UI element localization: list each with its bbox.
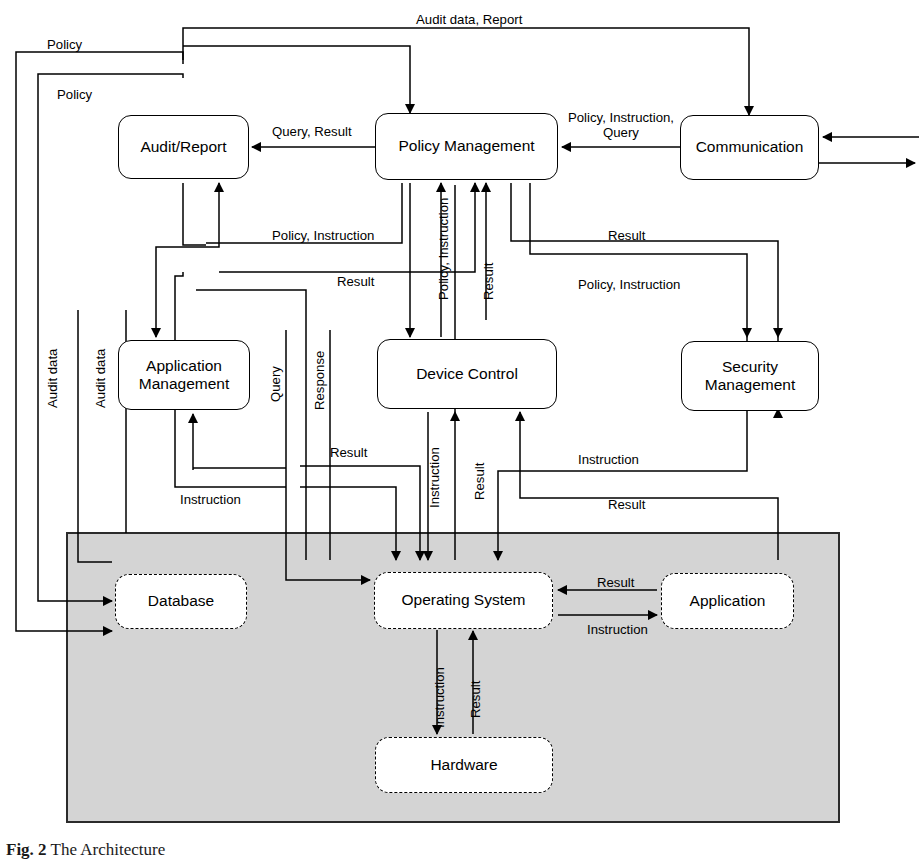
node-security-management[interactable]: Security Management (681, 341, 819, 411)
edge-label-policy-instruction-security: Policy, Instruction (578, 277, 680, 292)
node-label: Security Management (682, 358, 818, 395)
edge-label-policy-instruction-audit: Policy, Instruction (272, 228, 374, 243)
edge-label-policy-instruction-device: Policy, Instruction (436, 198, 451, 300)
node-policy-management[interactable]: Policy Management (375, 113, 558, 180)
node-label: Operating System (401, 591, 525, 609)
edge-policy-instruction-ar (156, 243, 219, 330)
figure-caption-prefix: Fig. 2 (6, 840, 47, 859)
edge-audit-data-report (183, 28, 749, 115)
node-label: Application (690, 592, 766, 610)
edge-label-policy-1: Policy (47, 37, 82, 52)
node-communication[interactable]: Communication (680, 115, 819, 180)
node-label: Audit/Report (140, 138, 226, 156)
edge-label-result-application: Result (597, 575, 634, 590)
edge-am-instruction (175, 413, 286, 487)
node-hardware[interactable]: Hardware (375, 737, 553, 793)
node-label: Application Management (119, 357, 249, 394)
node-audit-report[interactable]: Audit/Report (118, 115, 249, 179)
edge-label-instruction-app-mgmt: Instruction (180, 492, 241, 507)
edge-label-audit-data-report: Audit data, Report (416, 12, 522, 27)
edge-label-result-os-device: Result (472, 463, 487, 500)
edge-ar-hub-down-stub (183, 183, 206, 245)
figure-caption-text: The Architecture (51, 840, 166, 859)
figure-canvas: Audit/Report Policy Management Communica… (0, 0, 919, 867)
edge-label-result-app-mgmt: Result (330, 445, 367, 460)
edge-label-policy-2: Policy (57, 87, 92, 102)
node-label: Communication (696, 138, 804, 156)
edge-label-result-hardware: Result (468, 681, 483, 718)
edge-ar-hub-b-left (175, 272, 183, 330)
node-label: Device Control (416, 365, 518, 383)
edge-pm-top-feed (183, 46, 410, 58)
edge-result-pm-right (511, 183, 778, 337)
edge-label-audit-data-1: Audit data (45, 349, 60, 408)
node-application-management[interactable]: Application Management (118, 340, 250, 410)
node-device-control[interactable]: Device Control (377, 339, 557, 409)
edge-label-instruction-security: Instruction (578, 452, 639, 467)
edge-label-result-security: Result (608, 497, 645, 512)
edge-label-instruction-application: Instruction (587, 622, 648, 637)
node-label: Policy Management (398, 137, 534, 155)
node-database[interactable]: Database (115, 574, 247, 629)
node-label: Database (148, 592, 214, 610)
edge-label-result-audit: Result (337, 274, 374, 289)
edge-label-audit-data-2: Audit data (93, 349, 108, 408)
node-operating-system[interactable]: Operating System (374, 572, 553, 629)
edge-label-query: Query (268, 366, 283, 402)
edge-label-result-device: Result (481, 263, 496, 300)
edge-pm-in-4 (530, 183, 747, 337)
edge-label-policy-instruction-query: Policy, Instruction, Query (566, 110, 676, 140)
edge-ar-hub-b-left2 (196, 290, 306, 560)
edge-label-response: Response (312, 351, 327, 410)
node-application[interactable]: Application (661, 573, 794, 629)
edge-label-query-result: Query, Result (272, 124, 352, 139)
node-label: Hardware (430, 756, 497, 774)
edge-label-result-pm-right: Result (608, 228, 645, 243)
edge-label-instruction-hardware: Instruction (432, 667, 447, 728)
edge-label-instruction-os-device: Instruction (427, 447, 442, 508)
figure-caption: Fig. 2 The Architecture (6, 840, 165, 860)
